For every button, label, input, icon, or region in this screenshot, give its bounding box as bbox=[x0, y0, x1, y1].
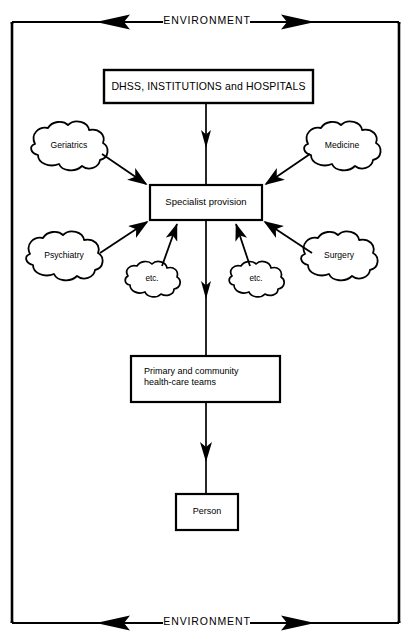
cloud-etc-left[interactable] bbox=[125, 261, 180, 296]
node-box-dhss[interactable] bbox=[104, 70, 313, 103]
diagram-canvas: ENVIRONMENT ENVIRONMENT DHSS, INSTITUTIO… bbox=[0, 0, 411, 639]
connector-etc-left-to-specialist bbox=[162, 224, 177, 266]
connector-dhss-to-specialist bbox=[201, 103, 211, 185]
node-box-primary-teams[interactable] bbox=[131, 356, 280, 402]
cloud-etc-right[interactable] bbox=[229, 261, 284, 296]
connector-psychiatry-to-specialist bbox=[100, 222, 147, 253]
connector-medicine-to-specialist bbox=[266, 154, 310, 184]
cloud-psychiatry[interactable] bbox=[26, 231, 102, 280]
environment-bottom-label: ENVIRONMENT bbox=[163, 615, 251, 627]
connector-surgery-to-specialist bbox=[265, 222, 312, 253]
node-box-person[interactable] bbox=[176, 494, 238, 530]
connector-specialist-to-primary bbox=[201, 220, 211, 356]
connector-primary-to-person bbox=[200, 402, 212, 494]
cloud-medicine[interactable] bbox=[304, 121, 380, 170]
cloud-surgery[interactable] bbox=[301, 231, 377, 280]
environment-top-label: ENVIRONMENT bbox=[163, 14, 251, 26]
node-box-specialist-provision[interactable] bbox=[150, 185, 262, 220]
cloud-geriatrics[interactable] bbox=[31, 121, 107, 170]
diagram-vector-layer bbox=[0, 0, 411, 639]
connector-etc-right-to-specialist bbox=[236, 224, 250, 266]
connector-geriatrics-to-specialist bbox=[102, 154, 146, 184]
